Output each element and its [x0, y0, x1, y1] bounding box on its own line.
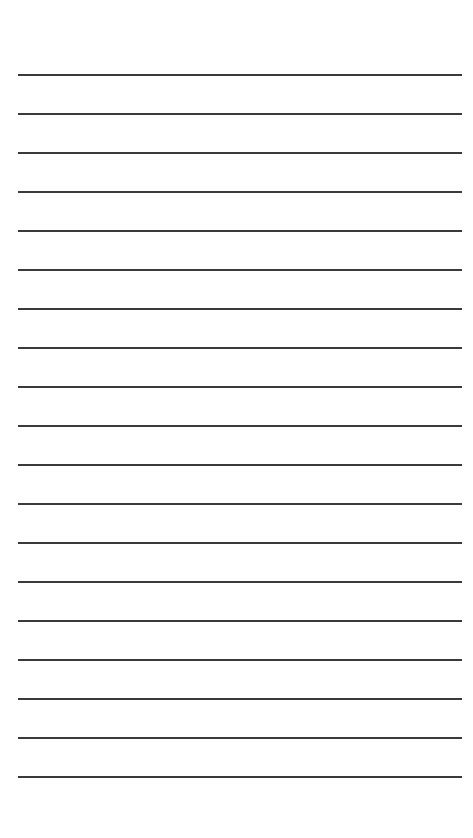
- ruled-line: [18, 542, 462, 544]
- ruled-line: [18, 425, 462, 427]
- ruled-line: [18, 113, 462, 115]
- ruled-line: [18, 308, 462, 310]
- ruled-line: [18, 230, 462, 232]
- ruled-line: [18, 659, 462, 661]
- ruled-line: [18, 269, 462, 271]
- ruled-line: [18, 464, 462, 466]
- ruled-line: [18, 191, 462, 193]
- ruled-line: [18, 152, 462, 154]
- ruled-line: [18, 347, 462, 349]
- ruled-page: [0, 0, 473, 838]
- ruled-line: [18, 620, 462, 622]
- ruled-line: [18, 698, 462, 700]
- ruled-line: [18, 737, 462, 739]
- ruled-line: [18, 581, 462, 583]
- ruled-line: [18, 503, 462, 505]
- ruled-line: [18, 74, 462, 76]
- ruled-line: [18, 386, 462, 388]
- ruled-line: [18, 776, 462, 778]
